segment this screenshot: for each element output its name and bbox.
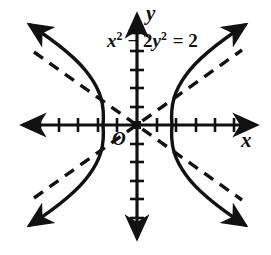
equation-y-exponent: 2 — [161, 30, 167, 43]
equation-x-var: x — [107, 30, 117, 51]
origin-label: O — [112, 129, 126, 148]
y-axis-label: y — [146, 3, 155, 24]
equation-annotation: x2− 2y2= 2 — [107, 30, 198, 52]
hyperbola-figure: y x O x2− 2y2= 2 — [0, 0, 271, 255]
equation-equals-term: = 2 — [173, 30, 198, 51]
x-axis-label: x — [241, 130, 252, 151]
equation-y-var: y — [152, 30, 160, 51]
equation-x-exponent: 2 — [117, 30, 123, 43]
equation-minus-term: − 2 — [127, 30, 152, 51]
